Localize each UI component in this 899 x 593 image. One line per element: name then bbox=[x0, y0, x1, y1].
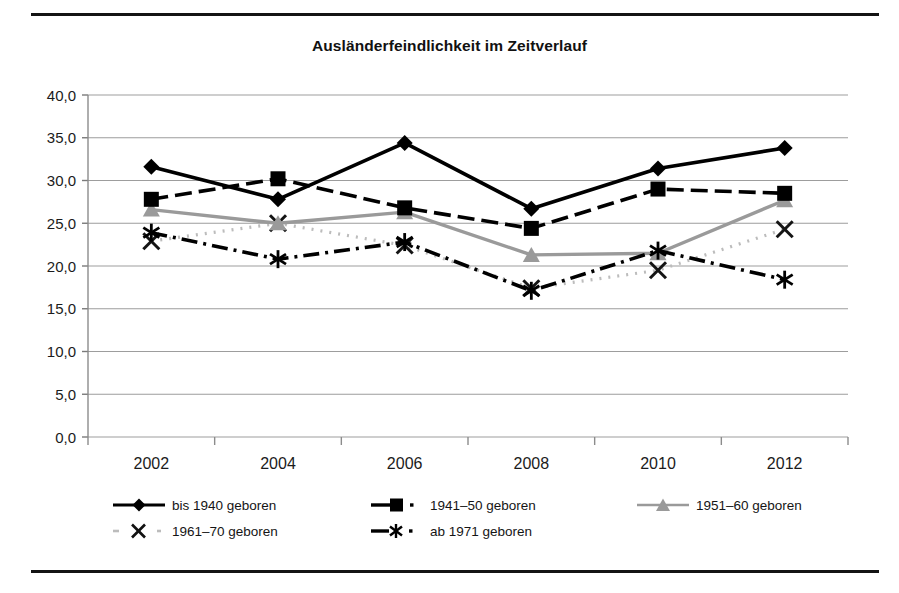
legend-key-square-icon bbox=[370, 496, 424, 514]
data-point-square bbox=[777, 186, 792, 201]
x-tick-label: 2006 bbox=[387, 455, 423, 472]
y-axis-tick-labels: 0,05,010,015,020,025,030,035,040,0 bbox=[47, 87, 76, 446]
data-series-layer bbox=[143, 135, 793, 300]
series-group bbox=[143, 135, 792, 217]
axis-lines bbox=[82, 95, 848, 445]
x-tick-label: 2004 bbox=[260, 455, 296, 472]
legend-item-1961-70[interactable]: 1961–70 geboren bbox=[112, 518, 370, 544]
x-tick-label: 2008 bbox=[514, 455, 550, 472]
data-point-diamond bbox=[777, 140, 793, 156]
y-tick-label: 20,0 bbox=[47, 258, 76, 275]
data-point-diamond bbox=[523, 201, 539, 217]
legend-key-triangle-icon bbox=[636, 496, 690, 514]
data-point-square bbox=[651, 182, 666, 197]
legend-label-1961-70: 1961–70 geboren bbox=[172, 524, 278, 539]
y-tick-label: 30,0 bbox=[47, 172, 76, 189]
y-tick-label: 5,0 bbox=[55, 386, 76, 403]
legend-item-ab-1971[interactable]: ab 1971 geboren bbox=[370, 518, 636, 544]
legend-item-1951-60[interactable]: 1951–60 geboren bbox=[636, 492, 852, 518]
legend-item-bis-1940[interactable]: bis 1940 geboren bbox=[112, 492, 370, 518]
x-tick-label: 2002 bbox=[134, 455, 170, 472]
data-point-diamond bbox=[270, 191, 286, 207]
legend-row-2: 1961–70 geboren ab 1971 geboren bbox=[112, 518, 852, 544]
series-line bbox=[151, 143, 784, 209]
legend-label-1941-50: 1941–50 geboren bbox=[430, 498, 536, 513]
legend-key-x-icon bbox=[112, 522, 166, 540]
data-point-square bbox=[524, 221, 539, 236]
legend-label-ab-1971: ab 1971 geboren bbox=[430, 524, 532, 539]
y-tick-label: 0,0 bbox=[55, 429, 76, 446]
series-group bbox=[143, 215, 792, 296]
legend-label-1951-60: 1951–60 geboren bbox=[696, 498, 802, 513]
data-point-x bbox=[650, 262, 666, 278]
series-line bbox=[151, 200, 784, 255]
figure-page: Ausländerfeindlichkeit im Zeitverlauf 0,… bbox=[0, 0, 899, 593]
x-tick-label: 2010 bbox=[640, 455, 676, 472]
data-point-square bbox=[271, 171, 286, 186]
y-tick-label: 10,0 bbox=[47, 343, 76, 360]
y-tick-label: 35,0 bbox=[47, 129, 76, 146]
data-point-asterisk bbox=[777, 271, 793, 289]
legend-key-asterisk-icon bbox=[370, 522, 424, 540]
chart-legend: bis 1940 geboren 1941–50 geboren 1951–60… bbox=[112, 492, 852, 544]
legend-row-1: bis 1940 geboren 1941–50 geboren 1951–60… bbox=[112, 492, 852, 518]
data-point-square bbox=[397, 200, 412, 215]
data-point-diamond bbox=[143, 159, 159, 175]
legend-item-1941-50[interactable]: 1941–50 geboren bbox=[370, 492, 636, 518]
x-tick-label: 2012 bbox=[767, 455, 803, 472]
y-tick-label: 40,0 bbox=[47, 87, 76, 104]
legend-key-diamond-icon bbox=[112, 496, 166, 514]
data-point-diamond bbox=[650, 161, 666, 177]
y-tick-label: 15,0 bbox=[47, 300, 76, 317]
legend-label-bis-1940: bis 1940 geboren bbox=[172, 498, 276, 513]
y-tick-label: 25,0 bbox=[47, 215, 76, 232]
x-axis-tick-labels: 200220042006200820102012 bbox=[134, 455, 803, 472]
data-point-square bbox=[144, 192, 159, 207]
